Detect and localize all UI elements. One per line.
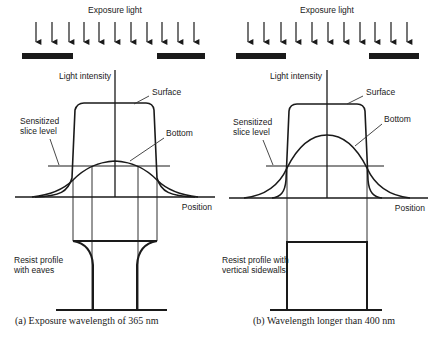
mask-bar-right — [157, 53, 205, 59]
bottom-leader — [130, 138, 164, 161]
panel-a: Exposure light Light intensity Position … — [13, 5, 215, 327]
intensity-axis-label: Light intensity — [59, 71, 112, 81]
resist-right-eave — [137, 241, 157, 310]
bottom-label: Bottom — [166, 128, 193, 138]
exposure-arrows — [248, 22, 407, 42]
lithography-diagram: Exposure light Light intensity Position … — [0, 0, 439, 341]
surface-label: Surface — [152, 87, 182, 97]
mask-bar-left — [236, 53, 286, 59]
exposure-arrows — [36, 22, 194, 42]
slice-level-leader — [50, 139, 59, 165]
slice-level-label: Sensitized slice level — [233, 117, 275, 137]
resist-profile-label: Resist profile with vertical sidewalls — [222, 255, 291, 275]
intensity-axis-label: Light intensity — [270, 71, 323, 81]
position-axis-label: Position — [395, 203, 426, 213]
caption-a: (a) Exposure wavelength of 365 nm — [15, 315, 159, 327]
slice-level-leader — [263, 140, 273, 165]
bottom-leader — [355, 124, 382, 146]
exposure-light-label: Exposure light — [88, 5, 143, 15]
slice-level-label: Sensitized slice level — [20, 116, 62, 136]
mask-bar-left — [22, 53, 73, 59]
resist-rectangle — [287, 242, 367, 310]
bottom-label: Bottom — [384, 114, 411, 124]
resist-left-eave — [73, 241, 93, 310]
surface-label: Surface — [366, 87, 396, 97]
mask-bar-right — [369, 53, 419, 59]
exposure-light-label: Exposure light — [300, 5, 355, 15]
panel-b: Exposure light Light intensity Position … — [222, 5, 428, 327]
surface-leader — [347, 96, 363, 104]
resist-profile-label: Resist profile with eaves — [13, 255, 66, 275]
caption-b: (b) Wavelength longer than 400 nm — [253, 315, 395, 327]
position-axis-label: Position — [182, 202, 213, 212]
